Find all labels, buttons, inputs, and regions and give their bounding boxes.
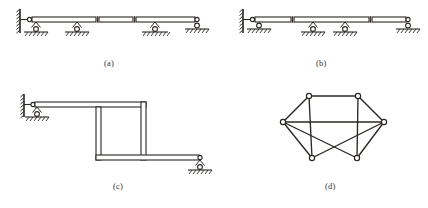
- truss-node-bottom-right: [354, 155, 359, 160]
- panel-c: [21, 94, 213, 174]
- wall-support-c: [21, 94, 25, 118]
- truss-members-d: [283, 96, 384, 158]
- figure-canvas: [0, 0, 428, 208]
- frame-member-c-bottom: [96, 155, 199, 160]
- structural-figure: (a) (b) (c) (d): [0, 0, 428, 208]
- truss-node-top-right: [355, 93, 360, 98]
- beam-segment-b-3: [372, 17, 406, 22]
- beam-segment-b-2: [294, 17, 369, 22]
- panel-a: [17, 9, 210, 36]
- pin-node-b-right: [406, 17, 410, 21]
- truss-member-topright-right: [358, 96, 384, 122]
- beam-segment-a-1: [32, 17, 96, 22]
- roller-support-c-1: [25, 107, 49, 121]
- truss-node-right: [381, 119, 386, 124]
- panel-caption-c: (c): [113, 181, 123, 191]
- roller-support-b-3: [333, 22, 357, 36]
- truss-node-left: [280, 119, 285, 124]
- panel-caption-a: (a): [104, 58, 114, 68]
- panel-d: [280, 93, 386, 160]
- truss-member-right-bottomright: [357, 122, 384, 158]
- panel-b: [240, 9, 421, 36]
- panel-caption-d: (d): [325, 181, 336, 191]
- truss-member-topright-bottomright: [357, 96, 358, 158]
- truss-member-left-bottomleft: [283, 122, 312, 158]
- truss-nodes-d: [280, 93, 386, 160]
- roller-support-a-1: [24, 22, 48, 36]
- roller-support-a-3: [142, 22, 170, 36]
- beam-segment-b-1: [255, 17, 291, 22]
- roller-support-b-2: [301, 22, 325, 36]
- truss-member-topleft-bottomleft: [309, 96, 312, 158]
- truss-node-top-left: [306, 93, 311, 98]
- truss-member-topleft-left: [283, 96, 309, 122]
- roller-support-a-4: [185, 23, 209, 33]
- pin-node-a-right: [195, 17, 199, 21]
- frame-member-c-top: [35, 102, 146, 107]
- truss-member-diagonal-right-bottomleft: [312, 122, 384, 158]
- wall-support-b: [240, 9, 244, 33]
- roller-support-b-1: [247, 23, 271, 33]
- pin-node-c-right: [198, 155, 202, 159]
- roller-support-a-2: [65, 22, 89, 36]
- frame-member-c-right-column: [141, 102, 146, 160]
- beam-segment-a-2: [99, 17, 133, 22]
- roller-support-c-2: [188, 160, 212, 174]
- frame-member-c-left-column: [96, 107, 101, 160]
- truss-node-bottom-left: [309, 155, 314, 160]
- truss-member-diagonal-left-bottomright: [283, 122, 357, 158]
- beam-segment-a-3: [136, 17, 195, 22]
- panel-caption-b: (b): [316, 58, 327, 68]
- pin-node-b-left: [250, 17, 254, 21]
- pin-node-a-left: [27, 17, 31, 21]
- wall-support-a: [17, 9, 21, 33]
- roller-support-b-4: [396, 23, 420, 33]
